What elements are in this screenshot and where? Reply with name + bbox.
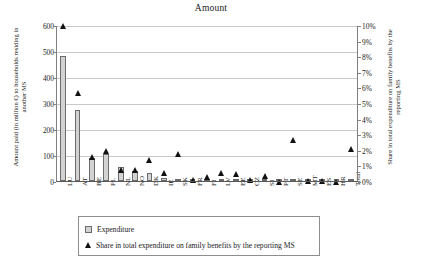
right-tick-label: 2% (362, 146, 390, 155)
share-marker (161, 170, 167, 176)
right-tick-mark (358, 104, 361, 105)
left-tick-label: 500 (28, 48, 54, 57)
left-tick-label: 0 (28, 178, 54, 187)
share-marker (175, 151, 181, 157)
legend-label: Expenditure (97, 225, 134, 234)
bar (60, 56, 66, 181)
right-tick-label: 3% (362, 131, 390, 140)
right-tick-label: 10% (362, 22, 390, 31)
gridline (56, 26, 358, 27)
bar-swatch-icon (85, 226, 92, 233)
bar (89, 158, 95, 181)
right-tick-label: 8% (362, 53, 390, 62)
right-tick-label: 9% (362, 37, 390, 46)
legend-label: Share in total expenditure on family ben… (96, 241, 295, 250)
chart-title: Amount (0, 3, 422, 13)
legend-item-expenditure: Expenditure (85, 221, 313, 237)
share-marker (103, 148, 109, 154)
left-axis-title: Amount paid (in million €) to households… (12, 22, 30, 172)
chart-legend: Expenditure Share in total expenditure o… (78, 216, 320, 256)
left-tick-label: 100 (28, 152, 54, 161)
gridline (56, 104, 358, 105)
share-marker (75, 90, 81, 96)
right-tick-label: 5% (362, 100, 390, 109)
share-marker (60, 23, 66, 29)
share-marker (118, 167, 124, 173)
left-tick-label: 200 (28, 126, 54, 135)
gridline (56, 130, 358, 131)
gridline (56, 156, 358, 157)
chart-container: Amount Amount paid (in million €) to hou… (0, 0, 422, 262)
share-marker (348, 146, 354, 152)
legend-item-share: Share in total expenditure on family ben… (85, 237, 313, 253)
left-tick-mark (53, 182, 56, 183)
bar (75, 110, 81, 181)
left-tick-label: 600 (28, 22, 54, 31)
gridline (56, 78, 358, 79)
share-marker (218, 170, 224, 176)
right-tick-mark (358, 166, 361, 167)
share-marker (233, 171, 239, 177)
right-tick-label: 6% (362, 84, 390, 93)
right-tick-label: 0% (362, 178, 390, 187)
share-marker (89, 154, 95, 160)
right-tick-mark (358, 42, 361, 43)
right-tick-mark (358, 73, 361, 74)
share-marker (262, 173, 268, 179)
left-tick-label: 300 (28, 100, 54, 109)
share-marker (146, 157, 152, 163)
share-marker (290, 137, 296, 143)
right-tick-mark (358, 151, 361, 152)
plot-area: 0100200300400500600 0%1%2%3%4%5%6%7%8%9%… (56, 26, 358, 182)
right-axis-line (357, 26, 358, 182)
right-tick-label: 4% (362, 115, 390, 124)
right-tick-label: 7% (362, 68, 390, 77)
right-tick-mark (358, 120, 361, 121)
gridline (56, 52, 358, 53)
left-axis-line (56, 26, 57, 182)
right-tick-mark (358, 135, 361, 136)
right-tick-mark (358, 26, 361, 27)
right-tick-mark (358, 88, 361, 89)
left-tick-label: 400 (28, 74, 54, 83)
right-tick-mark (358, 57, 361, 58)
triangle-marker-icon (85, 242, 91, 248)
category-axis-line (56, 181, 358, 182)
share-marker (132, 167, 138, 173)
right-tick-label: 1% (362, 162, 390, 171)
